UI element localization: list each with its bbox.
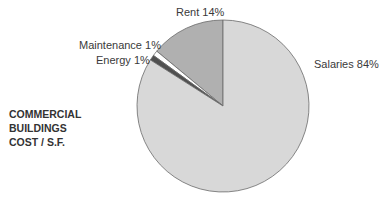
pie-slices [137,20,309,192]
title-line-3: COST / S.F. [9,135,81,149]
label-salaries: Salaries 84% [314,58,379,70]
title-line-2: BUILDINGS [9,121,81,135]
label-energy: Energy 1% [96,54,150,66]
label-maintenance: Maintenance 1% [79,39,161,51]
label-rent: Rent 14% [176,6,224,18]
title-line-1: COMMERCIAL [9,107,81,121]
pie-chart [0,0,384,201]
chart-title: COMMERCIAL BUILDINGS COST / S.F. [9,107,81,149]
